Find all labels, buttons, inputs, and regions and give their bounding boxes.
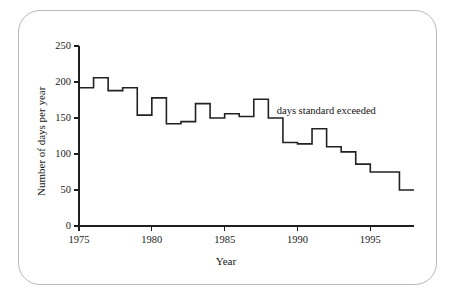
- figure-root: 050100150200250 19751980198519901995 Num…: [0, 0, 452, 295]
- x-tick-label: 1995: [345, 235, 395, 246]
- axis-lines: [79, 46, 414, 226]
- x-axis-label: Year: [0, 256, 452, 267]
- series-annotation-label: days standard exceeded: [277, 106, 376, 117]
- x-tick-label: 1980: [127, 235, 177, 246]
- plot-area: 050100150200250 19751980198519901995 Num…: [0, 0, 452, 295]
- y-axis-label: Number of days per year: [36, 87, 47, 196]
- step-line-series: [79, 78, 414, 190]
- x-tick-label: 1975: [54, 235, 104, 246]
- y-axis-ticks: [74, 46, 79, 226]
- y-tick-label: 200: [55, 77, 71, 88]
- y-tick-label: 250: [55, 41, 71, 52]
- x-tick-label: 1985: [200, 235, 250, 246]
- y-tick-label: 100: [55, 149, 71, 160]
- x-axis-ticks: [79, 226, 370, 231]
- y-tick-label: 50: [61, 185, 72, 196]
- y-tick-label: 0: [66, 221, 71, 232]
- x-tick-label: 1990: [272, 235, 322, 246]
- y-tick-label: 150: [55, 113, 71, 124]
